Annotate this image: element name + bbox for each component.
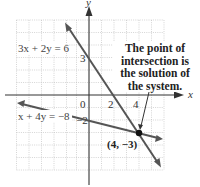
annotation-note: The point of intersection is the solutio… (113, 42, 197, 92)
tick-x-4: 4 (133, 98, 139, 110)
annotation-line: intersection is (113, 55, 197, 68)
annotation-pointer (141, 92, 149, 126)
tick-x-2: 2 (108, 98, 114, 110)
intersection-label: (4, −3) (107, 138, 137, 151)
equation-2-label: x + 4y = −8 (18, 110, 70, 122)
annotation-line: the system. (113, 80, 197, 93)
x-axis-arrow-icon (174, 92, 184, 99)
y-axis-label: y (85, 0, 91, 8)
line2-arrow-left-icon (17, 100, 25, 107)
tick-origin: 0 (80, 98, 86, 110)
intersection-point (136, 130, 142, 136)
annotation-line: The point of (113, 42, 197, 55)
graph: x y 0 2 4 3 −2 3x + 2y = 6 x + 4y = −8 (… (0, 0, 200, 187)
line2-arrow-right-icon (155, 135, 163, 142)
annotation-arrow-icon (138, 124, 143, 130)
annotation-line: the solution of (113, 67, 197, 80)
equation-1-label: 3x + 2y = 6 (18, 42, 69, 54)
